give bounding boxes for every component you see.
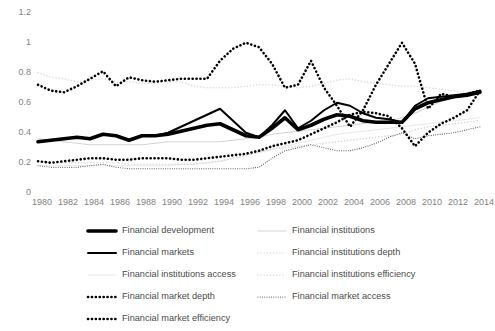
financial-development-line-chart: 00.20.40.60.811.2 1980198219841986198819…	[0, 0, 495, 331]
y-tick-label: 1.2	[18, 7, 31, 17]
x-tick-label: 1992	[188, 197, 208, 207]
x-tick-label: 1986	[110, 197, 130, 207]
legend-label: Financial market efficiency	[122, 313, 230, 323]
x-tick-label: 2012	[448, 197, 468, 207]
x-tick-label: 1996	[240, 197, 260, 207]
x-tick-label: 1980	[32, 197, 52, 207]
x-tick-label: 2006	[370, 197, 390, 207]
y-tick-label: 0.2	[18, 157, 31, 167]
y-tick-label: 0.8	[18, 67, 31, 77]
y-tick-label: 0.4	[18, 127, 31, 137]
x-tick-label: 2014	[474, 197, 494, 207]
legend-label: Financial institutions efficiency	[292, 269, 416, 279]
x-tick-label: 1988	[136, 197, 156, 207]
x-tick-label: 1994	[214, 197, 234, 207]
x-tick-label: 2008	[396, 197, 416, 207]
x-tick-label: 1982	[58, 197, 78, 207]
y-tick-label: 0.6	[18, 97, 31, 107]
x-tick-label: 2004	[344, 197, 364, 207]
y-tick-label: 1	[26, 37, 31, 47]
x-tick-label: 1998	[266, 197, 286, 207]
y-tick-label: 0	[26, 187, 31, 197]
legend-label: Financial institutions depth	[292, 247, 400, 257]
legend-label: Financial markets	[122, 247, 194, 257]
legend-label: Financial development	[122, 225, 214, 235]
x-tick-label: 1984	[84, 197, 104, 207]
legend-label: Financial market depth	[122, 291, 215, 301]
x-tick-label: 2010	[422, 197, 442, 207]
x-tick-label: 2000	[292, 197, 312, 207]
legend-label: Financial institutions	[292, 225, 375, 235]
x-tick-label: 2002	[318, 197, 338, 207]
legend-label: Financial market access	[292, 291, 391, 301]
legend-label: Financial institutions access	[122, 269, 236, 279]
x-tick-label: 1990	[162, 197, 182, 207]
